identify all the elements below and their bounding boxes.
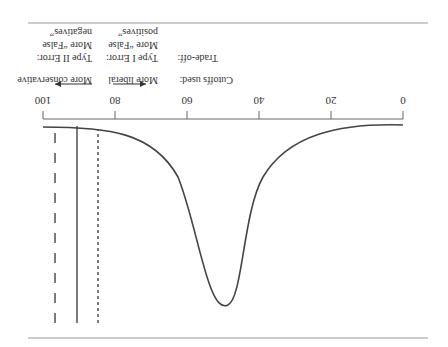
axis-ticks <box>43 111 403 119</box>
tick-label-80: 80 <box>109 95 121 107</box>
tradeoff-label: Trade-off: <box>177 53 218 64</box>
liberal-error-line2: More “False <box>108 40 158 51</box>
conservative-error-line1: Type II Error: <box>37 53 92 64</box>
more-conservative-label: More conservative <box>17 75 92 86</box>
curve <box>43 125 403 306</box>
tick-label-100: 100 <box>34 95 51 107</box>
tick-label-0: 0 <box>400 95 406 107</box>
tick-label-60: 60 <box>181 95 193 107</box>
conservative-error-line3: negatives” <box>50 27 92 38</box>
cutoffs-used-label: Cutoffs used: <box>180 75 233 86</box>
liberal-error-line1: Type I Error: <box>106 53 158 64</box>
tick-labels: 0 20 40 60 80 100 <box>34 95 406 107</box>
diagram-canvas: 0 20 40 60 80 100 Cutoffs used: Trade-of… <box>0 0 448 347</box>
tick-label-40: 40 <box>253 95 265 107</box>
tick-label-20: 20 <box>325 95 337 107</box>
more-liberal-label: More liberal <box>108 75 158 86</box>
conservative-error-line2: More “False <box>42 40 92 51</box>
liberal-error-line3: positives” <box>118 27 158 38</box>
figure-rotated: 0 20 40 60 80 100 Cutoffs used: Trade-of… <box>0 0 448 347</box>
